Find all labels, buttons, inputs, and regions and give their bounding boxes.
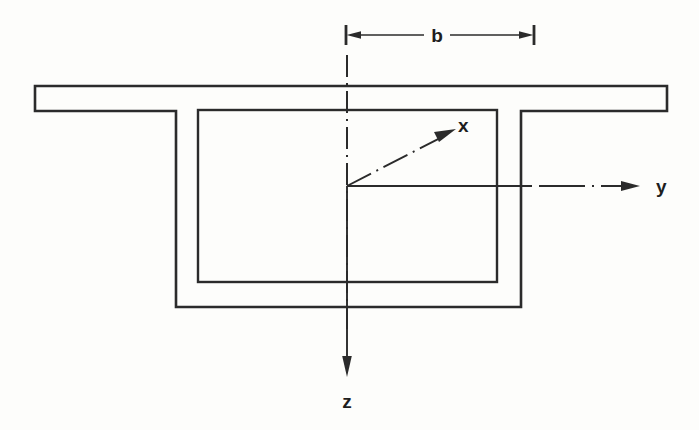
axis-z-arrowhead [342, 356, 352, 377]
axis-y-arrowhead [621, 181, 640, 191]
axis-z-group: z [342, 186, 352, 412]
cross-section-diagram: b y x z [0, 0, 699, 430]
axis-z-label: z [342, 391, 352, 412]
dimension-b-label: b [431, 25, 443, 46]
girder-outline-group [35, 86, 667, 307]
dimension-b-group: b [346, 25, 534, 46]
axis-x-line [347, 136, 444, 186]
girder-outer-profile [35, 86, 667, 307]
dimension-b-right-arrowhead [519, 31, 534, 38]
figure-canvas: b y x z [0, 0, 699, 430]
dimension-b-left-arrowhead [347, 31, 362, 38]
axis-x-group: x [347, 115, 469, 186]
axis-y-label: y [656, 176, 667, 197]
axis-y-group: y [347, 176, 667, 197]
axis-x-label: x [458, 115, 469, 136]
